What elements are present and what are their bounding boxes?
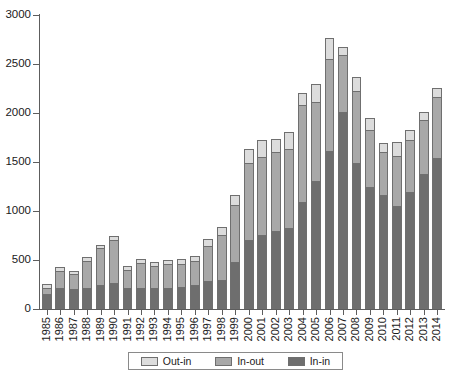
y-axis-tick xyxy=(33,260,39,261)
bar-segment-in-out xyxy=(136,263,146,288)
bar-segment-in-in xyxy=(379,195,389,309)
bar-segment-in-out xyxy=(109,240,119,282)
bar-segment-in-out xyxy=(217,235,227,280)
x-axis-label: 1989 xyxy=(95,317,106,341)
bar-segment-in-out xyxy=(352,91,362,163)
x-axis-label: 2002 xyxy=(270,317,281,341)
bar-group xyxy=(244,149,254,309)
bar-segment-in-out xyxy=(55,271,65,288)
y-axis-label: 500 xyxy=(0,254,31,265)
bar-segment-in-out xyxy=(203,246,213,281)
x-axis-tick xyxy=(437,310,438,315)
bar-group xyxy=(42,284,52,309)
legend-swatch-icon xyxy=(288,357,305,366)
x-axis-tick xyxy=(303,310,304,315)
x-axis-tick xyxy=(276,310,277,315)
bar-group xyxy=(379,143,389,309)
x-axis-tick xyxy=(289,310,290,315)
bar-segment-in-in xyxy=(284,228,294,309)
x-axis-label: 1986 xyxy=(54,317,65,341)
bar-group xyxy=(82,257,92,309)
bar-segment-in-in xyxy=(405,192,415,309)
bar-segment-in-in xyxy=(69,289,79,309)
y-axis-tick xyxy=(33,211,39,212)
bar-segment-in-out xyxy=(69,274,79,289)
x-axis-label: 1999 xyxy=(229,317,240,341)
x-axis-tick xyxy=(74,310,75,315)
bar-segment-out-in xyxy=(405,130,415,140)
x-axis-tick xyxy=(330,310,331,315)
bar-segment-in-out xyxy=(230,205,240,262)
x-axis-label: 2007 xyxy=(337,317,348,341)
y-axis-label: 1000 xyxy=(0,205,31,216)
bar-group xyxy=(284,132,294,309)
bar-group xyxy=(298,93,308,309)
x-axis-tick xyxy=(235,310,236,315)
legend-swatch-icon xyxy=(215,357,232,366)
bar-group xyxy=(392,142,402,309)
x-axis-tick xyxy=(424,310,425,315)
x-axis-label: 2000 xyxy=(243,317,254,341)
x-axis-label: 2004 xyxy=(297,317,308,341)
bar-segment-out-in xyxy=(432,88,442,97)
bar-segment-out-in xyxy=(298,93,308,105)
y-axis-label: 2500 xyxy=(0,58,31,69)
x-axis-label: 2010 xyxy=(377,317,388,341)
x-axis-label: 1985 xyxy=(41,317,52,341)
x-axis-tick xyxy=(397,310,398,315)
chart-legend: Out-inIn-outIn-in xyxy=(128,352,343,370)
bar-segment-out-in xyxy=(392,142,402,156)
bar-segment-in-in xyxy=(338,112,348,309)
bar-group xyxy=(352,77,362,309)
bar-segment-in-in xyxy=(325,151,335,309)
y-axis-label: 3000 xyxy=(0,9,31,20)
x-axis-tick xyxy=(208,310,209,315)
x-axis-label: 1993 xyxy=(148,317,159,341)
x-axis-label: 2005 xyxy=(310,317,321,341)
bar-segment-in-out xyxy=(365,130,375,188)
x-axis-label: 2009 xyxy=(364,317,375,341)
bar-group xyxy=(405,130,415,309)
x-axis-tick xyxy=(114,310,115,315)
bar-group xyxy=(271,139,281,309)
x-axis-tick xyxy=(262,310,263,315)
x-axis-label: 1990 xyxy=(108,317,119,341)
legend-swatch-icon xyxy=(141,357,158,366)
bar-segment-in-in xyxy=(365,187,375,309)
bar-group xyxy=(96,245,106,309)
x-axis-tick xyxy=(356,310,357,315)
y-axis-label: 1500 xyxy=(0,156,31,167)
bar-segment-in-out xyxy=(150,266,160,288)
x-axis-tick xyxy=(249,310,250,315)
bar-segment-in-in xyxy=(42,294,52,309)
y-axis-tick xyxy=(33,15,39,16)
bar-segment-out-in xyxy=(311,84,321,103)
bar-segment-in-out xyxy=(177,264,187,287)
x-axis-label: 1994 xyxy=(162,317,173,341)
bar-segment-in-in xyxy=(217,280,227,309)
bar-segment-in-in xyxy=(150,288,160,309)
x-axis-tick xyxy=(141,310,142,315)
bar-segment-out-in xyxy=(230,195,240,205)
bar-segment-in-out xyxy=(163,264,173,288)
x-axis-tick xyxy=(154,310,155,315)
bar-series-container xyxy=(40,15,444,309)
x-axis-tick xyxy=(181,310,182,315)
bar-segment-in-out xyxy=(284,149,294,227)
x-axis-label: 2014 xyxy=(431,317,442,341)
bar-segment-in-in xyxy=(271,231,281,309)
x-axis-tick xyxy=(195,310,196,315)
bar-segment-in-out xyxy=(244,163,254,240)
x-axis-label: 2006 xyxy=(324,317,335,341)
x-axis-label: 2001 xyxy=(256,317,267,341)
bar-segment-in-in xyxy=(96,285,106,310)
x-axis-tick xyxy=(343,310,344,315)
bar-segment-out-in xyxy=(338,47,348,55)
legend-label: In-out xyxy=(237,356,264,367)
bar-group xyxy=(432,88,442,309)
bar-group xyxy=(217,227,227,309)
x-axis-label: 1987 xyxy=(68,317,79,341)
bar-segment-in-out xyxy=(419,120,429,174)
bar-segment-in-in xyxy=(203,281,213,309)
legend-label: In-in xyxy=(310,356,330,367)
